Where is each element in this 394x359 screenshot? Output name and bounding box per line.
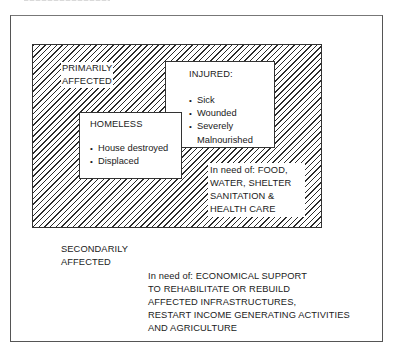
- homeless-box: HOMELESS House destroyed Displaced: [79, 112, 182, 179]
- primary-needs-text: In need of: FOOD, WATER, SHELTER SANITAT…: [208, 163, 305, 217]
- homeless-list: House destroyed Displaced: [90, 142, 168, 168]
- injured-item: Sick: [189, 94, 253, 107]
- injured-title: INJURED:: [189, 68, 233, 81]
- injured-list: Sick Wounded Severely Malnourished: [189, 94, 253, 147]
- secondary-needs-text: In need of: ECONOMICAL SUPPORT TO REHABI…: [148, 270, 350, 335]
- homeless-title: HOMELESS: [90, 118, 142, 131]
- secondarily-affected-label: SECONDARILY AFFECTED: [61, 243, 128, 269]
- homeless-item: House destroyed: [90, 142, 168, 155]
- homeless-item: Displaced: [90, 155, 168, 168]
- injured-item: Severely Malnourished: [189, 120, 253, 146]
- cropped-title-fragment: [24, 0, 110, 1]
- primarily-affected-label: PRIMARILY AFFECTED: [61, 62, 113, 88]
- injured-item: Wounded: [189, 107, 253, 120]
